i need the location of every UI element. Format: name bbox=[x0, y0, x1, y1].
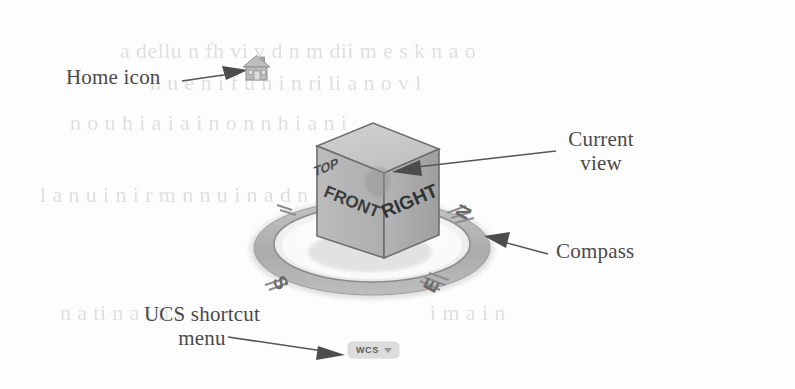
home-icon[interactable] bbox=[240, 51, 274, 85]
callout-label-current-view: Current view bbox=[553, 128, 649, 175]
home-icon-svg bbox=[240, 51, 274, 85]
leader-compass bbox=[484, 232, 548, 254]
chevron-down-icon bbox=[384, 348, 392, 353]
callout-label-compass: Compass bbox=[556, 240, 634, 264]
callout-label-home-icon: Home icon bbox=[66, 66, 161, 90]
callout-leaders bbox=[0, 0, 795, 389]
leader-home-icon bbox=[182, 66, 248, 81]
leader-current-view bbox=[392, 151, 556, 176]
figure-canvas: a dellu n fh vi v d n m dii m e s k n a … bbox=[0, 0, 795, 389]
ucs-shortcut-menu[interactable]: WCS bbox=[348, 342, 399, 358]
callout-label-ucs-shortcut-menu: UCS shortcut menu bbox=[126, 303, 278, 350]
ucs-current-value: WCS bbox=[356, 345, 379, 355]
